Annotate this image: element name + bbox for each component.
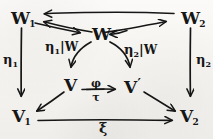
node-w1-sub: 1 [29, 19, 35, 29]
eta2-restrict-target: W [144, 43, 157, 57]
node-w1-base: W [11, 8, 30, 28]
node-v-prime-base: V [124, 77, 137, 97]
node-v-prime: V′ [124, 77, 141, 96]
node-w2-base: W [181, 8, 200, 28]
eta1-restrict-target: W [65, 40, 78, 54]
phi-numerator: φ [86, 78, 106, 89]
node-v2: V2 [180, 108, 199, 127]
arrow-v-to-v1 [37, 92, 64, 111]
node-w1: W1 [11, 10, 36, 29]
xi-glyph: ξ [99, 120, 107, 136]
tau-denominator: τ [86, 92, 106, 103]
node-v-base: V [64, 75, 77, 95]
edge-label-phi-over-tau: φ τ [86, 78, 106, 103]
node-v-prime-mark: ′ [137, 76, 141, 91]
edge-label-eta1-restricted-w: η1|W [45, 38, 78, 55]
arrow-w2-to-w1 [45, 12, 175, 13]
edge-label-xi: ξ [99, 121, 107, 135]
edge-label-eta2: η2 [196, 51, 211, 68]
node-w2: W2 [181, 10, 206, 29]
node-w: W [92, 26, 111, 43]
node-v1: V1 [12, 108, 31, 127]
arrow-vprime-to-v2 [144, 92, 175, 111]
edge-label-eta1: η1 [3, 51, 18, 68]
eta1-sub: 1 [12, 59, 18, 69]
edge-label-eta2-restricted-w: η2|W [124, 41, 157, 58]
node-v2-sub: 2 [192, 117, 198, 127]
node-w2-sub: 2 [199, 19, 205, 29]
node-w-base: W [92, 24, 111, 44]
node-v1-sub: 1 [24, 117, 30, 127]
eta2-sub: 2 [205, 59, 211, 69]
diagram-canvas: W2 (from centre W up-right to W2) --> W … [0, 0, 213, 139]
arrow-w-to-w2 [104, 22, 166, 33]
node-v: V [64, 77, 77, 94]
